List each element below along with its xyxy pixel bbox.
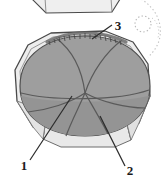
callout-label-1: 1 [21,158,28,173]
diagram-svg: 1 2 3 [0,0,168,180]
callout-label-3: 3 [115,18,122,33]
diagram-canvas: 1 2 3 [0,0,168,180]
callout-label-2: 2 [127,163,134,178]
upper-specimen-body [31,0,122,13]
cropped-upper-specimen [31,0,122,13]
